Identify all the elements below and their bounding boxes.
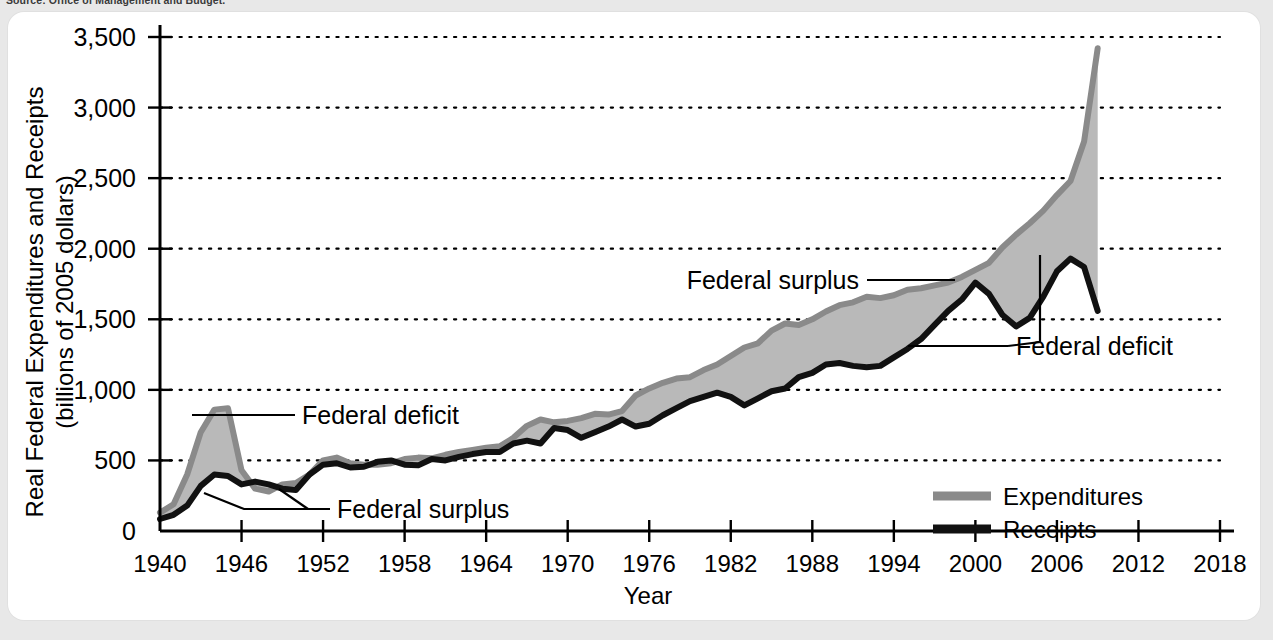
x-tick-label: 1982 xyxy=(704,550,757,577)
y-tick-label: 3,000 xyxy=(73,94,136,122)
y-tick-label: 1,500 xyxy=(73,305,136,333)
x-tick-label: 1964 xyxy=(459,550,512,577)
y-tick-label: 1,000 xyxy=(73,376,136,404)
legend-label: Receipts xyxy=(1003,516,1096,543)
y-tick-label: 0 xyxy=(122,517,136,545)
annotation-federal-surplus-left: Federal surplus xyxy=(204,489,509,523)
series-line-expenditures xyxy=(160,48,1098,512)
gap-area-fill xyxy=(160,48,1098,519)
x-tick-label: 1970 xyxy=(541,550,594,577)
y-axis-tick-labels: 05001,0001,5002,0002,5003,0003,500 xyxy=(73,23,136,545)
federal-expenditures-receipts-chart: 05001,0001,5002,0002,5003,0003,500 19401… xyxy=(8,12,1260,620)
x-tick-label: 1994 xyxy=(867,550,920,577)
source-note: Source: Office of Management and Budget. xyxy=(6,0,225,6)
x-tick-label: 2006 xyxy=(1030,550,1083,577)
annotation-label: Federal surplus xyxy=(687,266,859,294)
x-tick-label: 1946 xyxy=(215,550,268,577)
annotation-label: Federal deficit xyxy=(302,401,459,429)
x-tick-label: 2012 xyxy=(1112,550,1165,577)
x-axis-tick-labels: 1940194619521958196419701976198219881994… xyxy=(133,550,1246,577)
deficit-surplus-area xyxy=(160,48,1098,519)
x-axis-title: Year xyxy=(624,582,673,609)
y-tick-label: 3,500 xyxy=(73,23,136,51)
y-axis-title-line1: Real Federal Expenditures and Receipts xyxy=(21,87,48,518)
x-tick-label: 1988 xyxy=(786,550,839,577)
x-tick-label: 1940 xyxy=(133,550,186,577)
y-tick-label: 2,500 xyxy=(73,164,136,192)
legend-label: Expenditures xyxy=(1003,483,1143,510)
annotation-label: Federal surplus xyxy=(337,495,509,523)
x-tick-label: 2000 xyxy=(949,550,1002,577)
x-tick-label: 1958 xyxy=(378,550,431,577)
y-tick-label: 2,000 xyxy=(73,235,136,263)
y-axis-title-line2: (billions of 2005 dollars) xyxy=(51,175,78,428)
y-tick-label: 500 xyxy=(94,446,136,474)
x-tick-label: 2018 xyxy=(1193,550,1246,577)
x-tick-label: 1976 xyxy=(623,550,676,577)
x-tick-label: 1952 xyxy=(296,550,349,577)
annotation-label: Federal deficit xyxy=(1016,332,1173,360)
chart-legend: ExpendituresReceipts xyxy=(933,483,1143,543)
chart-panel: 05001,0001,5002,0002,5003,0003,500 19401… xyxy=(8,12,1260,620)
